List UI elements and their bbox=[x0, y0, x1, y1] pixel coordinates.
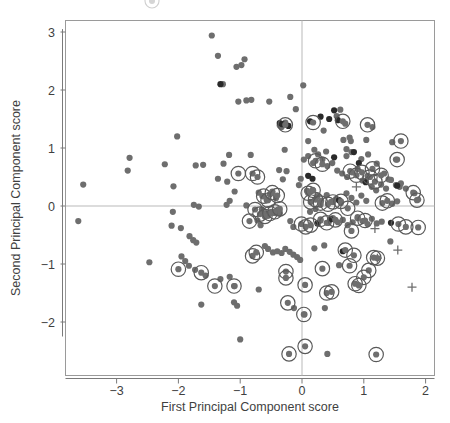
y-axis-ticks: −2−10123 bbox=[41, 26, 66, 337]
plain-point bbox=[237, 336, 243, 342]
plain-point bbox=[209, 32, 215, 38]
plain-point bbox=[170, 209, 176, 215]
y-tick-label: 3 bbox=[48, 26, 55, 40]
plain-point bbox=[196, 203, 202, 209]
dark-point bbox=[394, 183, 400, 189]
plain-point bbox=[256, 286, 262, 292]
dark-point bbox=[326, 116, 332, 122]
plain-point bbox=[324, 351, 330, 357]
dark-point bbox=[331, 107, 337, 113]
plain-point bbox=[226, 152, 232, 158]
plain-point bbox=[282, 147, 288, 153]
plain-point bbox=[215, 53, 221, 59]
plain-point bbox=[321, 128, 327, 134]
plain-point bbox=[170, 183, 176, 189]
x-tick-label: 2 bbox=[422, 384, 429, 398]
plain-point bbox=[363, 198, 369, 204]
x-tick-label: 0 bbox=[299, 384, 306, 398]
dark-point bbox=[217, 81, 223, 87]
plain-point bbox=[241, 56, 247, 62]
plain-point bbox=[193, 162, 199, 168]
plain-point bbox=[186, 263, 192, 269]
plain-point bbox=[336, 262, 342, 268]
plain-point bbox=[348, 195, 354, 201]
plain-point bbox=[379, 219, 385, 225]
plain-point bbox=[248, 152, 254, 158]
plain-point bbox=[146, 259, 152, 265]
plain-point bbox=[125, 168, 131, 174]
plain-point bbox=[126, 155, 132, 161]
plain-point bbox=[346, 134, 352, 140]
plain-point bbox=[232, 188, 238, 194]
plain-point bbox=[266, 99, 272, 105]
plain-point bbox=[337, 107, 343, 113]
plain-point bbox=[340, 137, 346, 143]
plain-point bbox=[287, 218, 293, 224]
dark-point bbox=[309, 176, 315, 182]
plain-point bbox=[283, 168, 289, 174]
plain-point bbox=[296, 182, 302, 188]
plain-point bbox=[248, 97, 254, 103]
plain-point bbox=[215, 176, 221, 182]
plain-point bbox=[298, 176, 304, 182]
pca-score-scatter-plot: −3−2−1012 −2−10123 First Principal Compo… bbox=[0, 0, 450, 423]
plain-point bbox=[363, 137, 369, 143]
plain-point bbox=[193, 239, 199, 245]
plain-point bbox=[387, 238, 393, 244]
plain-point bbox=[220, 161, 226, 167]
plot-frame bbox=[66, 21, 435, 376]
x-tick-label: 1 bbox=[360, 384, 367, 398]
plain-point bbox=[365, 151, 371, 157]
plain-point bbox=[224, 202, 230, 208]
x-tick-label: −3 bbox=[109, 384, 123, 398]
plain-point bbox=[358, 192, 364, 198]
plain-point bbox=[80, 181, 86, 187]
plain-point bbox=[75, 218, 81, 224]
plain-point bbox=[297, 257, 303, 263]
y-tick-label: −1 bbox=[41, 258, 55, 272]
legend-dot-icon bbox=[149, 0, 155, 4]
dark-point bbox=[317, 114, 323, 120]
plain-point bbox=[200, 162, 206, 168]
plain-point bbox=[305, 138, 311, 144]
x-axis-ticks: −3−2−1012 bbox=[109, 379, 429, 399]
dark-point bbox=[331, 154, 337, 160]
plain-point bbox=[198, 302, 204, 308]
plain-point bbox=[178, 225, 184, 231]
legend-marker-fragment bbox=[145, 0, 159, 8]
plain-point bbox=[323, 148, 329, 154]
plain-point bbox=[224, 179, 230, 185]
y-tick-label: 0 bbox=[48, 200, 55, 214]
plain-point bbox=[287, 94, 293, 100]
plain-point bbox=[311, 147, 317, 153]
plain-point bbox=[321, 242, 327, 248]
plain-point bbox=[169, 223, 175, 229]
x-tick-label: −2 bbox=[171, 384, 185, 398]
plain-point bbox=[343, 153, 349, 159]
plain-point bbox=[235, 99, 241, 105]
plain-point bbox=[322, 305, 328, 311]
plain-point bbox=[174, 133, 180, 139]
plain-point bbox=[276, 167, 282, 173]
y-tick-label: −2 bbox=[41, 316, 55, 330]
dark-point bbox=[351, 149, 357, 155]
plain-point bbox=[238, 62, 244, 68]
plain-point bbox=[162, 161, 168, 167]
plain-point bbox=[300, 82, 306, 88]
plain-point bbox=[293, 106, 299, 112]
plain-point bbox=[311, 245, 317, 251]
scatter-plot-figure: −3−2−1012 −2−10123 First Principal Compo… bbox=[0, 0, 450, 423]
y-tick-label: 2 bbox=[48, 84, 55, 98]
x-axis-title: First Principal Component score bbox=[161, 400, 339, 414]
y-axis-title: Second Principal Component score bbox=[9, 100, 23, 296]
plain-point bbox=[234, 303, 240, 309]
plain-point bbox=[280, 176, 286, 182]
x-tick-label: −1 bbox=[233, 384, 247, 398]
plain-point bbox=[383, 186, 389, 192]
y-tick-label: 1 bbox=[48, 142, 55, 156]
plain-point bbox=[343, 146, 349, 152]
